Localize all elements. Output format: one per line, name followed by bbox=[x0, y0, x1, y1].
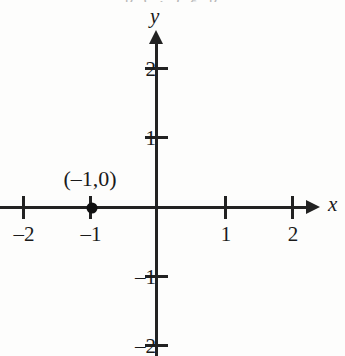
y-axis-tick-label: 2 bbox=[146, 59, 157, 80]
y-axis-line bbox=[155, 42, 158, 356]
x-axis-arrow-icon bbox=[306, 200, 320, 214]
y-axis-tick-label: 1 bbox=[146, 128, 157, 149]
x-axis-tick-label: 1 bbox=[221, 224, 232, 245]
x-axis-tick bbox=[291, 196, 294, 219]
x-axis-label: x bbox=[328, 194, 337, 215]
y-axis-arrow-icon bbox=[149, 30, 163, 44]
y-axis-label: y bbox=[150, 6, 159, 27]
x-axis-tick-label: –1 bbox=[81, 224, 102, 245]
x-axis-tick bbox=[22, 196, 25, 219]
clipped-text-above: p ( , ) g p bbox=[0, 0, 345, 2]
x-axis-tick bbox=[224, 196, 227, 219]
x-axis-tick-label: –2 bbox=[14, 224, 35, 245]
y-axis-tick-label: –1 bbox=[135, 267, 156, 288]
plotted-point-label: (–1,0) bbox=[63, 168, 116, 190]
plotted-point-marker bbox=[87, 203, 98, 214]
coordinate-plane-figure: p ( , ) g p –2 –1 1 2 2 1 –1 –2 x y (–1,… bbox=[0, 0, 345, 356]
y-axis-tick-label: –2 bbox=[135, 336, 156, 356]
x-axis-tick-label: 2 bbox=[288, 224, 299, 245]
